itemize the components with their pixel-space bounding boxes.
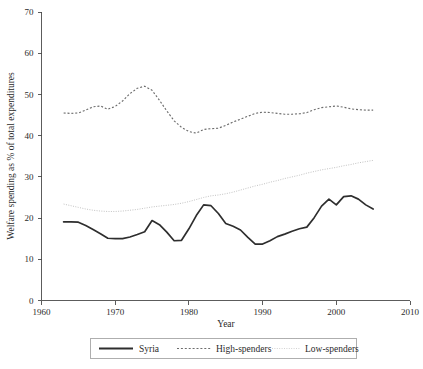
series-line-low-spenders <box>64 160 374 211</box>
legend-label-low-spenders: Low-spenders <box>305 344 359 354</box>
y-tick-label: 50 <box>25 90 35 100</box>
y-tick-label: 20 <box>25 213 35 223</box>
chart-legend: Syria High-spenders Low-spenders <box>91 339 360 359</box>
series-line-syria <box>64 196 374 244</box>
y-axis-ticks: 010203040506070 <box>25 7 42 306</box>
x-tick-label: 1970 <box>106 307 125 317</box>
y-tick-label: 60 <box>25 48 35 58</box>
x-axis-title: Year <box>217 319 235 329</box>
legend-label-syria: Syria <box>139 344 160 354</box>
y-tick-label: 40 <box>25 131 35 141</box>
y-axis-title: Welfare spending as % of total expenditu… <box>6 72 16 240</box>
y-tick-label: 10 <box>25 254 35 264</box>
x-tick-label: 1980 <box>180 307 199 317</box>
x-tick-label: 1990 <box>254 307 273 317</box>
x-axis-ticks: 196019701980199020002010 <box>33 301 420 317</box>
series-line-high-spenders <box>64 86 374 133</box>
y-tick-label: 0 <box>29 296 34 306</box>
chart-figure: 010203040506070 196019701980199020002010… <box>0 0 423 369</box>
line-chart: 010203040506070 196019701980199020002010… <box>0 0 423 369</box>
x-tick-label: 2000 <box>327 307 346 317</box>
y-tick-label: 30 <box>25 172 35 182</box>
x-tick-label: 1960 <box>33 307 52 317</box>
x-tick-label: 2010 <box>401 307 420 317</box>
legend-label-high-spenders: High-spenders <box>216 344 272 354</box>
y-tick-label: 70 <box>25 7 35 17</box>
